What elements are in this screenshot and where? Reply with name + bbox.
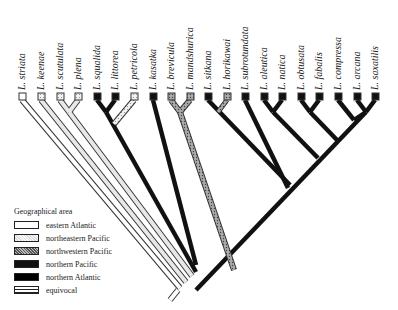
tip-label-mandshurica: L. mandshurica: [185, 27, 195, 90]
tip-label-brevicula: L. brevicula: [166, 42, 176, 90]
legend-label: northern Pacific: [46, 260, 97, 269]
legend-title: Geographical area: [14, 207, 112, 216]
legend: Geographical area eastern Atlantic north…: [14, 207, 112, 297]
swatch-black-icon: [14, 273, 39, 281]
tip-label-keenae: L. keenae: [36, 52, 46, 90]
tip-label-striata: L. striata: [17, 53, 27, 90]
swatch-lines-icon: [14, 286, 39, 294]
legend-label: northeastern Pacific: [46, 234, 110, 243]
tip-label-squalida: L. squalida: [92, 45, 102, 90]
tip-label-saxatilis: L. saxatilis: [370, 46, 380, 90]
tip-label-horikawai: L. horikawai: [222, 39, 232, 90]
horikawai-branch: [218, 100, 227, 112]
swatch-black-icon: [14, 260, 39, 268]
tip-label-petricola: L. petricola: [129, 43, 139, 90]
legend-label: equivocal: [46, 286, 77, 295]
tip-label-plena: L. plena: [73, 57, 83, 90]
tip-label-littorea: L. littorea: [110, 50, 120, 90]
legend-item-eastern-atlantic: eastern Atlantic: [14, 219, 112, 231]
tip-label-fabalis: L. fabalis: [314, 52, 324, 90]
swatch-white-icon: [14, 221, 39, 229]
tip-label-subrotundata: L. subrotundata: [240, 26, 250, 90]
legend-item-equivocal: equivocal: [14, 284, 112, 296]
tip-label-sitkana: L. sitkana: [203, 51, 213, 90]
swatch-light-stipple-icon: [14, 234, 39, 242]
legend-label: northern Atlantic: [46, 273, 100, 282]
legend-item-northern-atlantic: northern Atlantic: [14, 271, 112, 283]
tip-label-compressa: L. compressa: [333, 37, 343, 90]
tip-label-obtusata: L. obtusata: [296, 45, 306, 90]
swatch-dark-stipple-icon: [14, 247, 39, 255]
legend-item-northern-pacific: northern Pacific: [14, 258, 112, 270]
petricola-branch: [114, 100, 134, 124]
tip-boxes: [19, 93, 379, 100]
tip-label-natica: L. natica: [277, 54, 287, 90]
legend-item-northeastern-pacific: northeastern Pacific: [14, 232, 112, 244]
tip-label-scutulata: L. scutulata: [55, 43, 65, 90]
tip-label-aleutica: L. aleutica: [259, 47, 269, 90]
tip-label-arcana: L. arcana: [352, 51, 362, 90]
black-branches: [97, 100, 375, 290]
legend-label: northwestern Pacific: [46, 247, 112, 256]
legend-item-northwestern-pacific: northwestern Pacific: [14, 245, 112, 257]
tip-label-kasatka: L. kasatka: [148, 49, 158, 90]
legend-label: eastern Atlantic: [46, 221, 96, 230]
